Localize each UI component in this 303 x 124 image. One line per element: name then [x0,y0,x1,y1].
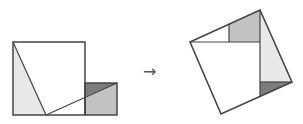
after-figure [190,10,292,114]
mid-gray-piece-moved [229,10,260,42]
before-figure [13,42,117,115]
right-arrow-icon: → [143,62,156,82]
